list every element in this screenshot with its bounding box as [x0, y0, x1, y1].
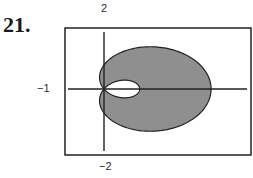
polar-graph	[0, 0, 253, 178]
